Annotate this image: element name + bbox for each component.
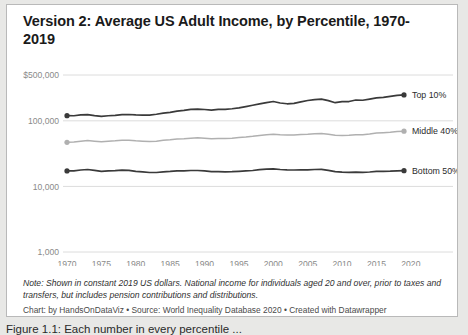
x-axis-tick-label: 1975 — [92, 259, 111, 266]
x-axis-tick-label: 1995 — [229, 259, 248, 266]
series-label-bottom-50: Bottom 50% — [412, 166, 458, 176]
y-axis-tick-label: $500,000 — [23, 70, 59, 80]
series-line-middle-40 — [67, 131, 404, 142]
chart-credit: Chart: by HandsOnDataViz • Source: World… — [23, 305, 447, 315]
x-axis-tick-label: 1970 — [57, 259, 76, 266]
x-axis-tick-label: 1980 — [126, 259, 145, 266]
x-axis-tick-label: 2005 — [298, 259, 317, 266]
series-label-middle-40: Middle 40% — [412, 126, 458, 136]
series-endpoint-dot — [401, 92, 406, 97]
series-endpoint-dot — [401, 129, 406, 134]
series-endpoint-dot — [64, 140, 69, 145]
y-axis-tick-label: 10,000 — [33, 182, 60, 192]
x-axis-tick-label: 1990 — [195, 259, 214, 266]
x-axis-tick-label: 2015 — [367, 259, 386, 266]
figure-caption: Figure 1.1: Each number in every percent… — [6, 322, 462, 335]
chart-card: Version 2: Average US Adult Income, by P… — [6, 4, 458, 317]
series-endpoint-dot — [64, 113, 69, 118]
series-endpoint-dot — [401, 168, 406, 173]
series-endpoint-dot — [64, 168, 69, 173]
series-label-top-10: Top 10% — [412, 90, 446, 100]
x-axis-tick-label: 2010 — [333, 259, 352, 266]
chart-title: Version 2: Average US Adult Income, by P… — [23, 13, 433, 48]
chart-plot-area: $500,000100,00010,0001,00019701975198019… — [7, 61, 458, 266]
y-axis-tick-label: 100,000 — [28, 116, 59, 126]
series-line-top-10 — [67, 95, 404, 116]
income-line-chart: $500,000100,00010,0001,00019701975198019… — [7, 61, 458, 266]
x-axis-tick-label: 2020 — [401, 259, 420, 266]
x-axis-tick-label: 2000 — [264, 259, 283, 266]
series-line-bottom-50 — [67, 169, 404, 173]
y-axis-tick-label: 1,000 — [37, 247, 59, 257]
chart-note: Note: Shown in constant 2019 US dollars.… — [23, 277, 447, 301]
x-axis-tick-label: 1985 — [161, 259, 180, 266]
